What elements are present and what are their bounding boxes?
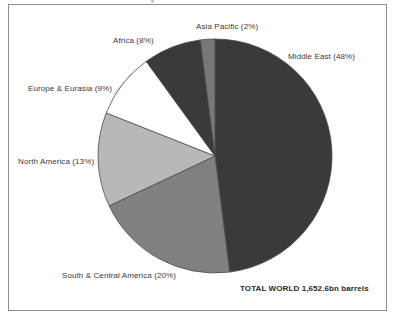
total-world-annotation: TOTAL WORLD 1,652.6bn barrels <box>240 284 369 293</box>
pie-chart-screenshot: Asia Pacific (2%) Middle East (48%) Afri… <box>0 0 395 323</box>
slice-label-europe-eurasia: Europe & Eurasia (9%) <box>28 84 112 94</box>
slice-label-north-america: North America (13%) <box>18 157 94 167</box>
pie-slice-middle-east <box>215 39 332 272</box>
slice-label-south-central-america: South & Central America (20%) <box>62 271 176 281</box>
slice-label-middle-east: Middle East (48%) <box>288 52 355 62</box>
slice-label-asia-pacific: Asia Pacific (2%) <box>196 22 258 32</box>
slice-label-africa: Africa (8%) <box>113 36 154 46</box>
pie-slice-group <box>98 39 332 273</box>
